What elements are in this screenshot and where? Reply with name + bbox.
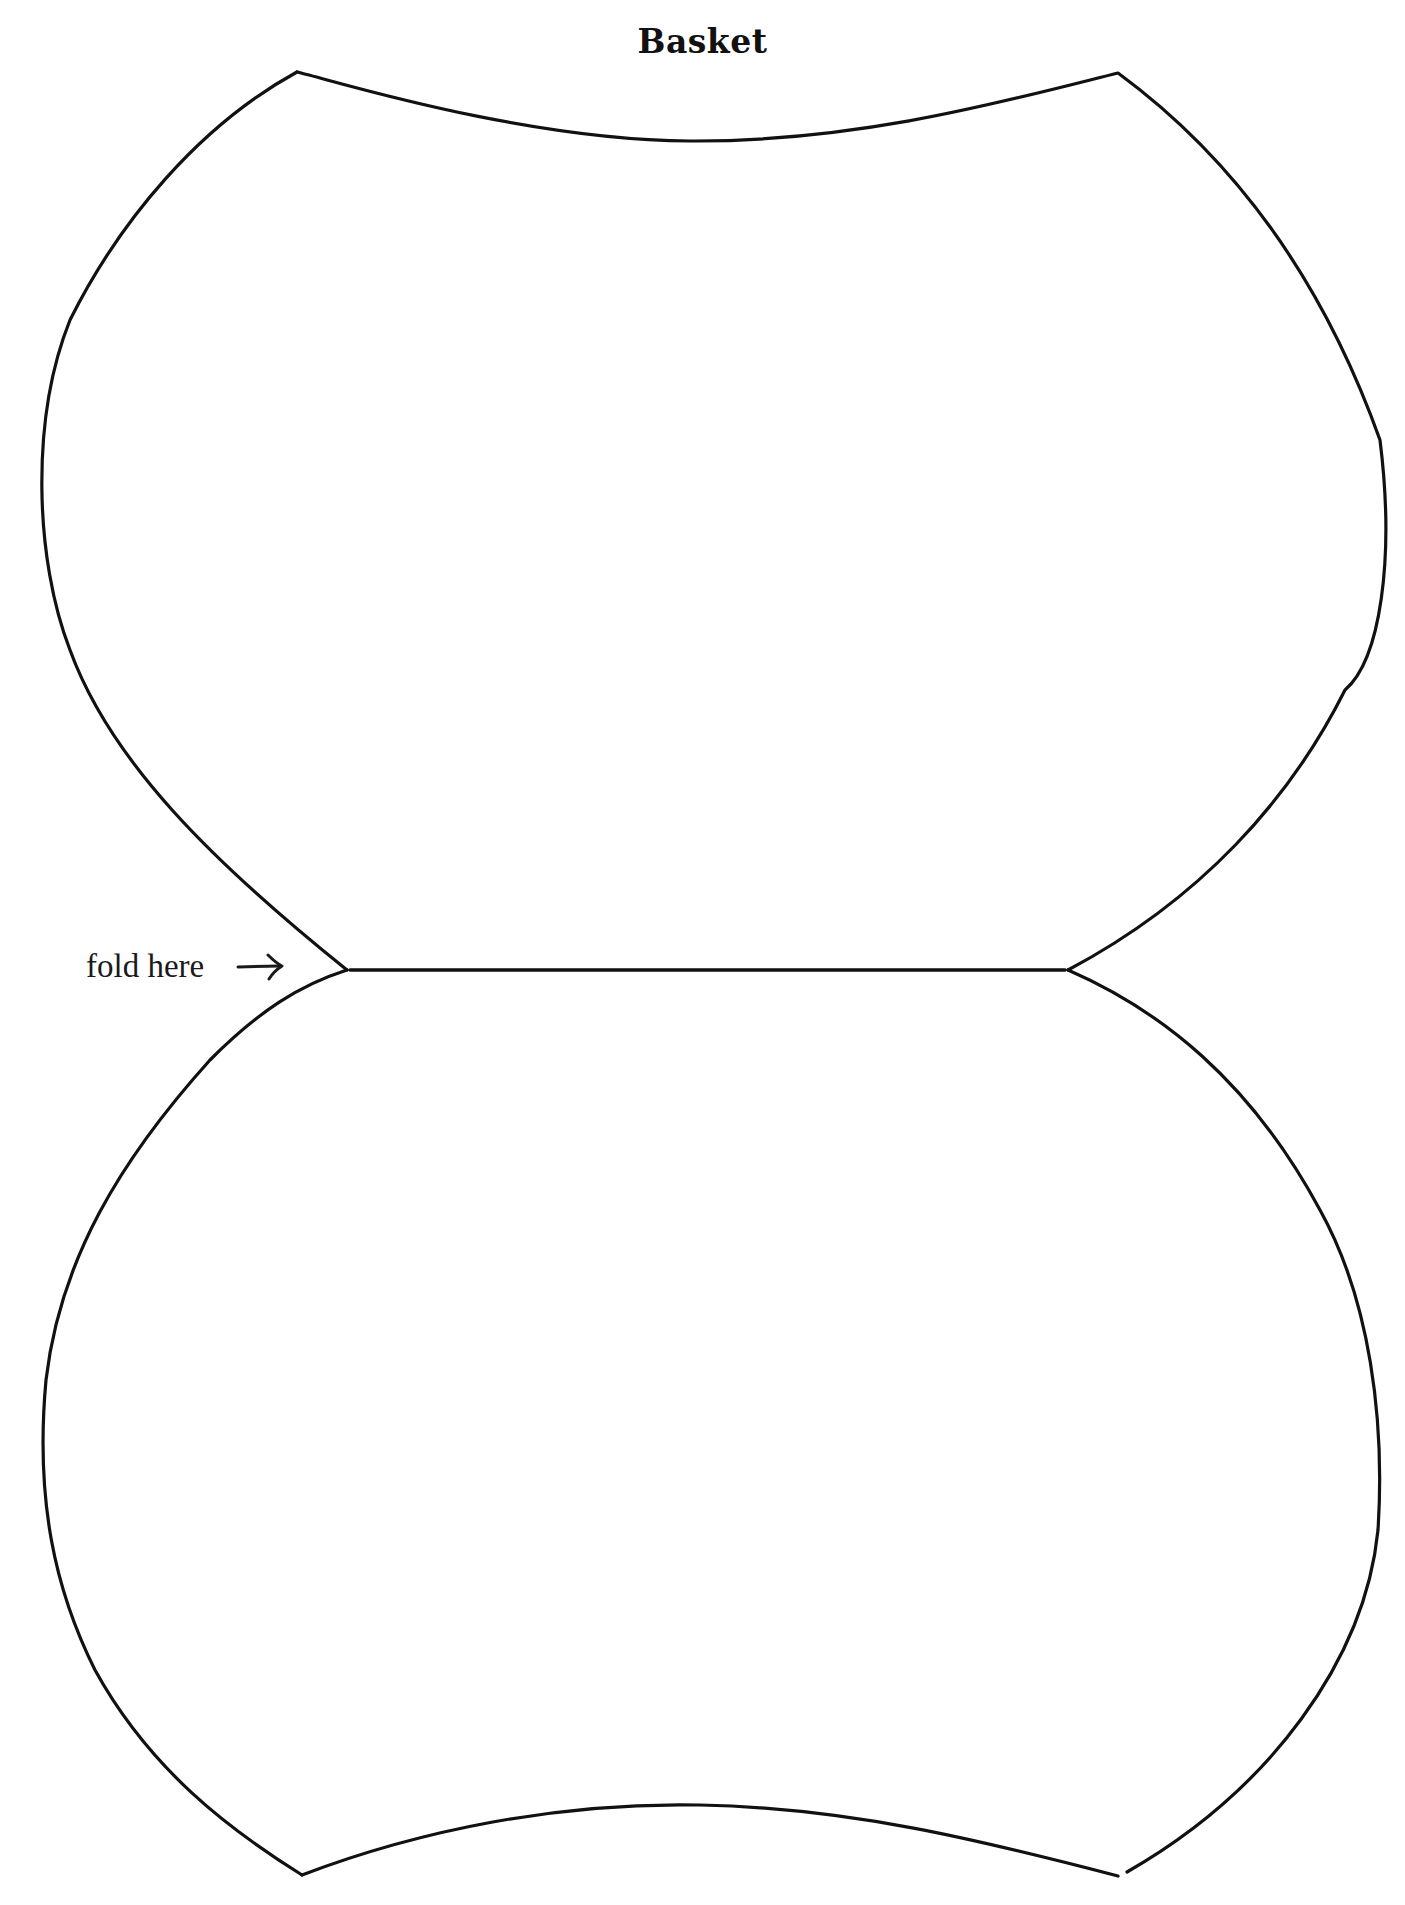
bottom-lobe-left-outline [43, 970, 347, 1875]
right-arrow-icon [236, 951, 286, 981]
fold-here-label: fold here [86, 948, 204, 985]
basket-template-page: Basket fold here [0, 0, 1405, 1905]
bottom-lobe-right-outline [1068, 970, 1380, 1872]
top-lobe-outline [297, 72, 1386, 970]
basket-cutout-outline [0, 0, 1405, 1905]
bottom-lobe-bottom-outline [302, 1805, 1118, 1876]
top-lobe-left-outline [42, 72, 347, 970]
